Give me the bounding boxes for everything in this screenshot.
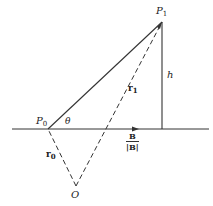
p0-label-main: P (36, 115, 43, 126)
r0-label-sub: 0 (51, 152, 56, 161)
r1-label: r1 (128, 84, 138, 94)
r0-label: r0 (46, 150, 56, 160)
o-label: O (71, 190, 79, 200)
b-denominator: |B| (126, 143, 139, 151)
theta-label: θ (65, 117, 70, 126)
p1-label-sub: 1 (163, 10, 167, 18)
p1-label: P1 (156, 6, 167, 18)
diagram-canvas: P1 h r1 P0 θ B |B| r0 O (0, 0, 213, 206)
p0-label: P0 (36, 116, 47, 128)
p0-p1-line (48, 22, 162, 129)
b-unit-vector-label: B |B| (126, 132, 139, 151)
diagram-lines (0, 0, 213, 206)
p1-label-main: P (156, 5, 163, 16)
r1-label-sub: 1 (133, 86, 138, 95)
h-label: h (167, 70, 173, 80)
p0-label-sub: 0 (43, 120, 47, 128)
r1-vector (76, 22, 162, 186)
b-numerator: B (126, 132, 139, 140)
